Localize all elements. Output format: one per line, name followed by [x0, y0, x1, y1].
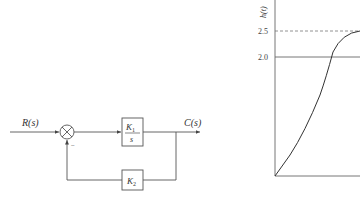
feedback-block: K2: [122, 170, 143, 190]
feedback-block-sub: 2: [133, 181, 136, 187]
y-axis-label: h(t): [259, 6, 268, 18]
block-diagram: R(s) − K1 s C(s) K2: [10, 117, 202, 190]
ytick-label-peak: 2.5: [258, 27, 268, 36]
summing-junction: [60, 125, 74, 139]
forward-numerator-sub: 1: [132, 127, 135, 133]
input-label: R(s): [21, 117, 39, 129]
forward-block: K1 s: [122, 118, 143, 146]
svg-text:K2: K2: [126, 176, 136, 187]
ytick-label-steady: 2.0: [258, 53, 268, 62]
figure-canvas: R(s) − K1 s C(s) K2 h(t): [0, 0, 360, 200]
svg-text:K1: K1: [125, 122, 135, 133]
feedback-path-left: [67, 140, 122, 180]
feedback-path-right: [143, 132, 176, 180]
feedback-sign: −: [71, 142, 75, 150]
forward-denominator: s: [130, 135, 133, 144]
response-plot: h(t) 2.5 2.0: [258, 0, 360, 176]
output-label: C(s): [184, 117, 202, 129]
response-curve: [275, 31, 360, 176]
